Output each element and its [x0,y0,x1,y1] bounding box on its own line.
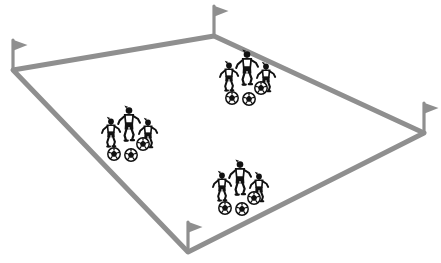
field-canvas [0,0,441,263]
corner-flag-top [214,6,229,36]
corner-flag-right [424,103,439,133]
soccer-field-scene [0,0,441,263]
field-group [13,36,424,252]
soccer-field-outline [13,36,424,252]
